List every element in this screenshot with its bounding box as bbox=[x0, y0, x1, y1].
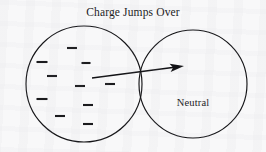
neutral-sphere-outline bbox=[139, 30, 247, 138]
negative-charge-group bbox=[37, 48, 116, 124]
charge-transfer-arrow-shaft bbox=[92, 67, 176, 78]
neutral-sphere-label: Neutral bbox=[177, 97, 210, 108]
charge-transfer-figure: Charge Jumps Over Neutral bbox=[0, 0, 266, 152]
page-title: Charge Jumps Over bbox=[86, 6, 180, 19]
diagram-canvas: Charge Jumps Over Neutral bbox=[0, 0, 266, 152]
